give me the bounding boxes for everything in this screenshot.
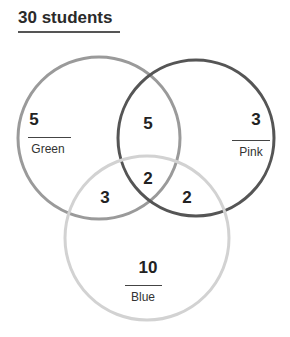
pink-circle	[118, 60, 274, 216]
all-three-count: 2	[143, 169, 152, 189]
green-label-rule	[28, 137, 71, 138]
green-only-count: 5	[29, 110, 38, 130]
blue-label: Blue	[131, 290, 155, 304]
pink-blue-count: 2	[182, 188, 191, 208]
green-blue-count: 3	[100, 188, 109, 208]
green-pink-count: 5	[143, 114, 152, 134]
green-label: Green	[31, 142, 64, 156]
blue-label-rule	[125, 285, 162, 286]
pink-only-count: 3	[251, 110, 260, 130]
pink-label: Pink	[239, 145, 262, 159]
green-circle	[18, 57, 180, 219]
blue-only-count: 10	[139, 258, 158, 278]
pink-label-rule	[232, 140, 270, 141]
